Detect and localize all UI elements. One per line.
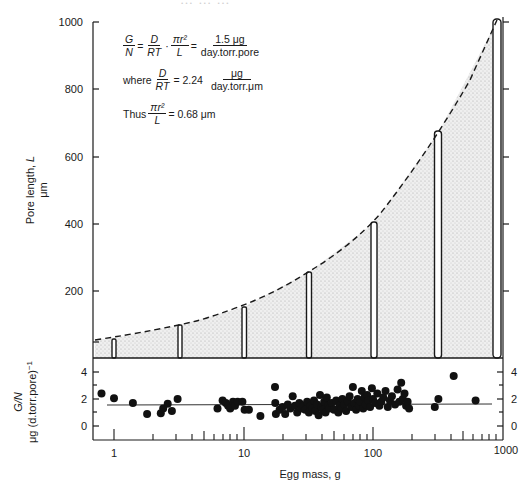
xtick-100: 100: [364, 447, 382, 459]
lower-right-ytick-0: 0: [511, 420, 517, 432]
scatter-point: [98, 390, 106, 398]
scatter-point: [434, 395, 442, 403]
lower-right-ytick-2: 2: [511, 393, 517, 405]
x-axis-log-ticks: [114, 427, 496, 440]
scatter-point: [382, 387, 390, 395]
upper-right-axis: [503, 17, 509, 440]
fraction-g-over-n: GN: [123, 33, 135, 58]
ytick-800: 800: [65, 83, 83, 95]
lower-ytick-4: 4: [81, 366, 87, 378]
ytick-1000: 1000: [59, 16, 83, 28]
scatter-point: [271, 399, 279, 407]
lower-y-axis-title: G/N μg (d.torr.pore)−1: [12, 360, 38, 443]
scatter-points: [98, 372, 480, 420]
scatter-point: [472, 396, 480, 404]
lower-left-y-tick-labels: 4 2 0: [81, 366, 87, 432]
fraction-pir2-over-l: πr²L: [171, 33, 189, 58]
xtick-1: 1: [111, 447, 117, 459]
lower-right-ytick-4: 4: [511, 366, 517, 378]
scatter-point: [349, 383, 357, 391]
scatter-point: [404, 398, 412, 406]
fraction-unit: μgday.torr.μm: [209, 67, 265, 92]
xtick-1000: 1000: [494, 444, 518, 456]
pore-bar-3g: [178, 325, 182, 358]
scatter-point: [271, 383, 279, 391]
scatter-point: [397, 379, 405, 387]
upper-y-axis-title: Pore length, L μm: [24, 156, 49, 225]
scatter-point: [110, 394, 118, 402]
scatter-point: [394, 386, 402, 394]
lower-ytick-0: 0: [81, 420, 87, 432]
svg-text:G/N: G/N: [12, 392, 24, 412]
ytick-200: 200: [65, 285, 83, 297]
scatter-point: [388, 392, 396, 400]
pore-bar-316g: [435, 131, 442, 358]
upper-y-tick-labels: 1000 800 600 400 200: [59, 16, 83, 297]
x-axis-title: Egg mass, g: [279, 468, 340, 480]
pore-bar-1g: [112, 339, 116, 358]
scatter-point: [256, 412, 264, 420]
scatter-point: [289, 392, 297, 400]
svg-text:μm: μm: [37, 182, 49, 198]
xtick-10: 10: [238, 447, 250, 459]
equation-block: GN = DRT · πr²L = 1.5 μgday.torr.pore wh…: [122, 33, 266, 126]
scatter-point: [238, 398, 246, 406]
scatter-point: [346, 392, 354, 400]
scatter-point: [405, 404, 413, 412]
fraction-rate-per-pore: 1.5 μgday.torr.pore: [199, 33, 261, 58]
scatter-point: [401, 390, 409, 398]
equation-line-3: Thus πr²L = 0.68 μm: [122, 101, 266, 126]
x-tick-labels: 1 10 100 1000: [111, 444, 518, 459]
equation-line-2: where DRT = 2.24 μgday.torr.μm: [122, 67, 266, 92]
pore-bar-10g: [242, 307, 247, 358]
scatter-point: [450, 372, 458, 380]
pore-bar-32g: [307, 272, 312, 358]
fraction-pir2-over-l-2: πr²L: [148, 101, 166, 126]
pore-bar-100g: [371, 222, 377, 358]
equation-line-1: GN = DRT · πr²L = 1.5 μgday.torr.pore: [122, 33, 266, 58]
lower-right-y-tick-labels: 4 2 0: [511, 366, 517, 432]
ytick-600: 600: [65, 151, 83, 163]
scatter-point: [214, 404, 222, 412]
scatter-point: [143, 410, 151, 418]
figure: 1000 800 600 400 200 Pore length, L μm: [0, 0, 532, 491]
fraction-d-over-rt-2: DRT: [154, 67, 172, 92]
scatter-point: [316, 391, 324, 399]
scatter-point: [431, 403, 439, 411]
lower-ytick-2: 2: [81, 393, 87, 405]
ytick-400: 400: [65, 218, 83, 230]
scatter-point: [164, 400, 172, 408]
svg-text:μg (d.torr.pore)−1: μg (d.torr.pore)−1: [25, 360, 38, 443]
scatter-point: [168, 407, 176, 415]
scatter-point: [174, 395, 182, 403]
scatter-point: [245, 406, 253, 414]
pore-bar-900g: [493, 19, 501, 358]
fraction-d-over-rt: DRT: [145, 33, 163, 58]
svg-text:Pore length, L: Pore length, L: [24, 156, 36, 225]
scatter-point: [129, 399, 137, 407]
upper-left-axis: [93, 22, 99, 440]
